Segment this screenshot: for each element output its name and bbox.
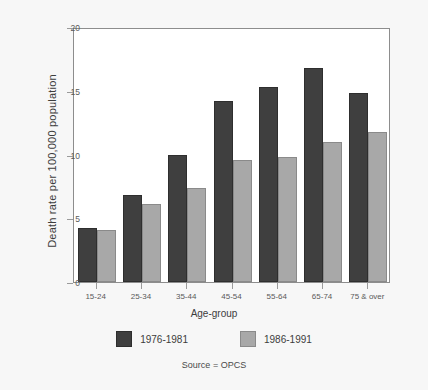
y-tick-mark bbox=[67, 92, 73, 93]
x-axis-title: Age-group bbox=[0, 308, 428, 319]
bar bbox=[187, 188, 206, 282]
y-axis-title: Death rate per 100,000 population bbox=[46, 31, 58, 291]
bar-group bbox=[349, 29, 387, 282]
bar bbox=[214, 101, 233, 282]
bar-group bbox=[123, 29, 161, 282]
bar-group bbox=[168, 29, 206, 282]
source-note: Source = OPCS bbox=[0, 360, 428, 370]
plot-area bbox=[73, 28, 390, 283]
bar bbox=[259, 87, 278, 282]
legend-swatch bbox=[240, 331, 256, 347]
bar bbox=[168, 155, 187, 283]
legend-label: 1986-1991 bbox=[264, 334, 312, 345]
legend-item: 1986-1991 bbox=[240, 331, 312, 347]
x-tick-mark bbox=[277, 283, 278, 289]
bar bbox=[323, 142, 342, 282]
y-tick-mark bbox=[67, 28, 73, 29]
chart-legend: 1976-19811986-1991 bbox=[0, 331, 428, 347]
x-tick-mark bbox=[322, 283, 323, 289]
bar bbox=[78, 228, 97, 282]
y-tick-mark bbox=[67, 283, 73, 284]
bar bbox=[142, 204, 161, 282]
x-tick-mark bbox=[141, 283, 142, 289]
bar-chart-figure: Death rate per 100,000 population 051015… bbox=[0, 0, 428, 390]
legend-label: 1976-1981 bbox=[140, 334, 188, 345]
x-tick-mark bbox=[96, 283, 97, 289]
x-tick-mark bbox=[186, 283, 187, 289]
bar-group bbox=[259, 29, 297, 282]
bar bbox=[97, 230, 116, 282]
legend-swatch bbox=[116, 331, 132, 347]
bar-group bbox=[214, 29, 252, 282]
bar bbox=[233, 160, 252, 282]
bar bbox=[368, 132, 387, 282]
bar bbox=[123, 195, 142, 282]
bar-group bbox=[304, 29, 342, 282]
y-tick-mark bbox=[67, 156, 73, 157]
bar-group bbox=[78, 29, 116, 282]
x-tick-label: 75 & over bbox=[337, 292, 397, 301]
bar bbox=[304, 68, 323, 282]
x-tick-mark bbox=[367, 283, 368, 289]
legend-item: 1976-1981 bbox=[116, 331, 188, 347]
bar bbox=[278, 157, 297, 282]
bar bbox=[349, 93, 368, 282]
y-tick-mark bbox=[67, 219, 73, 220]
x-tick-mark bbox=[232, 283, 233, 289]
bars-layer bbox=[74, 29, 389, 282]
